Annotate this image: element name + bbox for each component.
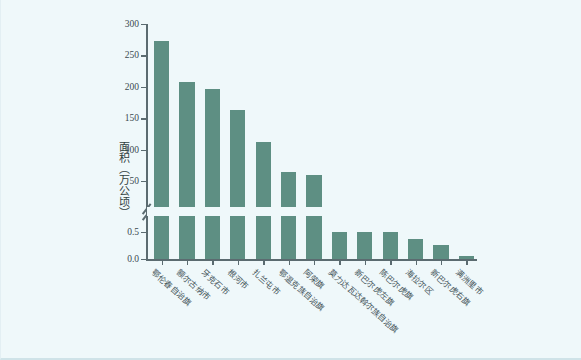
bar [408,239,423,259]
y-tick [141,118,146,119]
y-tick [141,259,146,260]
bar [357,232,372,259]
y-tick-label: 150 [125,113,139,123]
bar [256,142,271,259]
bar [459,256,474,259]
bar [433,245,448,259]
x-tick [289,260,290,265]
x-tick [162,260,163,265]
plot-area: 300250200150100500.50.0 [146,24,476,260]
x-tick [416,260,417,265]
x-tick [187,260,188,265]
y-tick [141,150,146,151]
y-tick-label: 100 [125,145,139,155]
x-tick [365,260,366,265]
bar [332,232,347,259]
bar [154,41,169,259]
y-tick-label: 250 [125,50,139,60]
y-axis-line [146,24,148,260]
y-tick [141,181,146,182]
x-tick [238,260,239,265]
x-axis-line [146,259,477,261]
bar [205,89,220,259]
y-tick [141,232,146,233]
x-tick [441,260,442,265]
x-tick [263,260,264,265]
bar [230,110,245,259]
x-tick-label: 扎兰屯市 [251,266,283,297]
y-tick-label: 300 [125,19,139,29]
y-tick-label: 0.0 [127,254,139,264]
y-tick-label: 200 [125,82,139,92]
y-tick-label: 0.5 [127,227,139,237]
axis-break-band [147,207,477,216]
y-tick [141,55,146,56]
x-tick [390,260,391,265]
chart-figure: 面积（万公顷） 300250200150100500.50.0 鄂伦春自治旗额尔… [0,0,581,360]
y-tick [141,87,146,88]
y-tick-label: 50 [130,176,140,186]
x-tick [339,260,340,265]
x-tick [466,260,467,265]
x-tick [212,260,213,265]
y-tick [141,24,146,25]
bar [306,175,321,259]
bar [383,232,398,259]
bar [179,82,194,259]
x-tick [314,260,315,265]
